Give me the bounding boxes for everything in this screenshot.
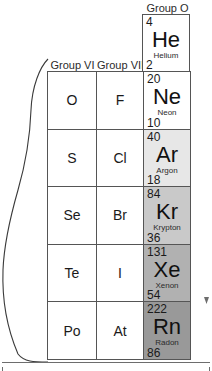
element-cell-krypton[interactable]: 84 Kr Krypton 36 (143, 186, 191, 245)
group-header-group-vii: Group VII (97, 59, 144, 71)
element-cell-bromine[interactable]: Br (96, 186, 144, 245)
table-row: O F 20 Ne Neon 10 (48, 72, 191, 130)
element-cell-chlorine[interactable]: Cl (96, 129, 144, 188)
element-atomic-number: 10 (147, 116, 160, 130)
element-symbol: At (97, 323, 143, 338)
element-cell-helium[interactable]: 4 He Helium 2 (142, 14, 190, 72)
element-grid: O F 20 Ne Neon 10 S Cl 40 Ar Argon (48, 72, 191, 360)
element-cell-argon[interactable]: 40 Ar Argon 18 (143, 129, 191, 188)
group-header-group-o: Group O (144, 2, 191, 14)
element-symbol: Br (97, 208, 143, 223)
periodic-table-fragment: Group O Group VI Group VII 4 He Helium 2… (0, 0, 212, 371)
element-symbol: Ar (144, 143, 190, 167)
element-symbol: Kr (144, 200, 190, 224)
table-row: Te I 131 Xe Xenon 54 (48, 245, 191, 303)
element-symbol: Ne (144, 85, 190, 109)
element-atomic-number: 2 (146, 58, 153, 72)
element-symbol: I (97, 266, 143, 281)
margin-tick-mark (203, 296, 210, 306)
table-row: Po At 222 Rn Radon 86 (48, 302, 191, 360)
element-atomic-number: 86 (147, 346, 160, 360)
next-figure-frame (2, 367, 210, 371)
element-cell-xenon[interactable]: 131 Xe Xenon 54 (143, 244, 191, 303)
element-cell-radon[interactable]: 222 Rn Radon 86 (143, 301, 191, 360)
table-row: Se Br 84 Kr Krypton 36 (48, 187, 191, 245)
element-symbol: F (97, 93, 143, 108)
table-break-wavy-edge (0, 58, 56, 363)
element-cell-fluorine[interactable]: F (96, 71, 144, 130)
element-symbol: Cl (97, 150, 143, 165)
element-atomic-number: 36 (147, 231, 160, 245)
element-symbol: Xe (144, 258, 190, 282)
element-symbol: He (143, 28, 189, 52)
element-cell-neon[interactable]: 20 Ne Neon 10 (143, 71, 191, 130)
table-row: S Cl 40 Ar Argon 18 (48, 130, 191, 188)
element-cell-iodine[interactable]: I (96, 244, 144, 303)
element-atomic-number: 18 (147, 173, 160, 187)
element-cell-astatine[interactable]: At (96, 301, 144, 360)
figure-divider-rule (2, 362, 210, 363)
element-atomic-number: 54 (147, 288, 160, 302)
element-symbol: Rn (144, 315, 190, 339)
